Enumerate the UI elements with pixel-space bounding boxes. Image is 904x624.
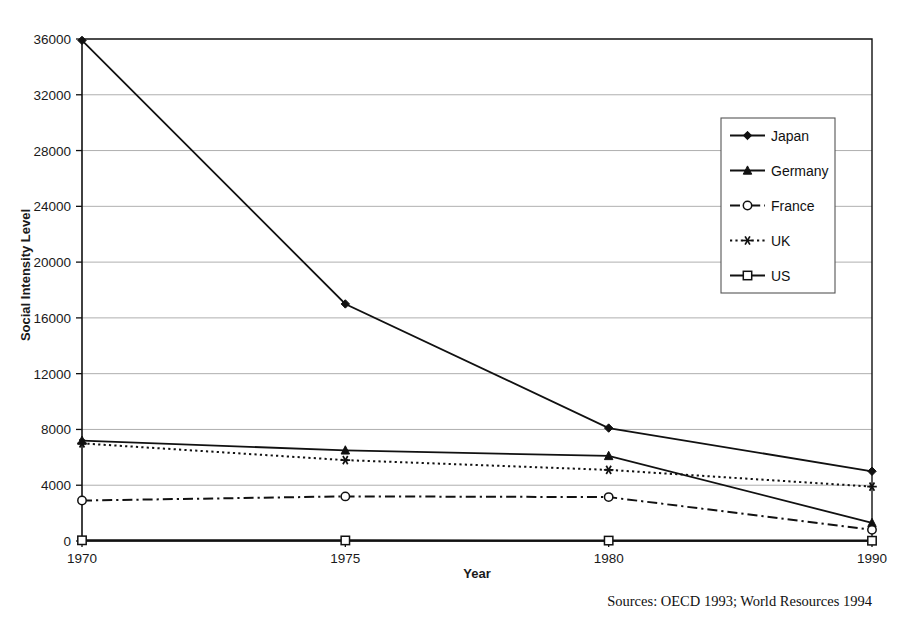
data-point-marker-open-square [743,271,751,279]
data-point-marker-open-square [604,536,612,544]
data-point-marker-open-circle [341,492,349,500]
y-tick-label: 16000 [33,311,71,326]
social-intensity-level-line-chart: 0400080001200016000200002400028000320003… [0,0,904,624]
legend-label: Germany [771,163,829,179]
y-tick-label: 8000 [41,422,71,437]
legend-label: UK [771,233,791,249]
legend-label: Japan [771,128,809,144]
y-axis-title: Social Intensity Level [18,209,33,341]
y-tick-label: 12000 [33,367,71,382]
x-tick-label: 1975 [330,551,360,566]
legend-label: France [771,198,815,214]
y-tick-label: 32000 [33,88,71,103]
y-tick-label: 24000 [33,199,71,214]
source-note: Sources: OECD 1993; World Resources 1994 [607,593,873,609]
y-tick-label: 36000 [33,32,71,47]
x-tick-label: 1990 [857,551,887,566]
data-point-marker-open-circle [78,496,86,504]
data-point-marker-open-square [341,536,349,544]
y-tick-label: 0 [63,534,71,549]
x-axis-title: Year [463,566,490,581]
data-point-marker-open-circle [868,526,876,534]
data-point-marker-open-square [868,537,876,545]
y-tick-label: 4000 [41,478,71,493]
data-point-marker-open-circle [604,493,612,501]
legend-label: US [771,268,790,284]
y-tick-label: 28000 [33,144,71,159]
y-tick-label: 20000 [33,255,71,270]
x-tick-label: 1970 [67,551,97,566]
data-point-marker-open-square [78,536,86,544]
data-point-marker-open-circle [743,201,751,209]
x-tick-label: 1980 [594,551,624,566]
chart-legend: JapanGermanyFranceUKUS [721,118,835,293]
